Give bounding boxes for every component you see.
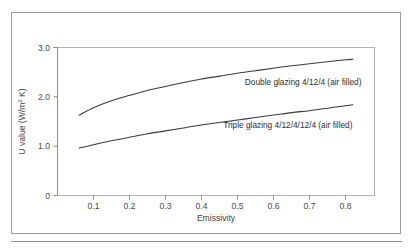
annotation-triple-glazing: Triple glazing 4/12/4/12/4 (air filled) <box>223 120 353 130</box>
y-tick-marks <box>54 48 58 196</box>
svg-text:U value (W/m2 K): U value (W/m2 K) <box>17 88 27 155</box>
x-tick-label-0: 0.1 <box>88 201 100 211</box>
x-tick-label-4: 0.5 <box>232 201 244 211</box>
y-tick-label-1: 1.0 <box>38 141 50 151</box>
y-axis-title: U value (W/m2 K) <box>17 88 27 155</box>
x-axis-title: Emissivity <box>197 213 236 223</box>
x-tick-label-1: 0.2 <box>124 201 136 211</box>
figure-root: 0 1.0 2.0 3.0 U value (W/m2 K) 0.1 0.2 0… <box>0 0 413 248</box>
y-axis-title-tail: K) <box>17 88 27 99</box>
x-tick-marks <box>94 196 346 200</box>
u-value-emissivity-chart: 0 1.0 2.0 3.0 U value (W/m2 K) 0.1 0.2 0… <box>0 0 413 248</box>
y-tick-label-0: 0 <box>45 191 50 201</box>
y-tick-label-3: 3.0 <box>38 43 50 53</box>
y-tick-label-2: 2.0 <box>38 92 50 102</box>
x-tick-label-5: 0.6 <box>268 201 280 211</box>
curve-double-glazing <box>79 59 353 115</box>
x-tick-label-7: 0.8 <box>340 201 352 211</box>
x-tick-label-6: 0.7 <box>304 201 316 211</box>
x-tick-label-3: 0.4 <box>196 201 208 211</box>
x-tick-label-2: 0.3 <box>160 201 172 211</box>
y-axis-title-main: U value (W/m <box>17 103 27 155</box>
annotation-double-glazing: Double glazing 4/12/4 (air filled) <box>245 77 362 87</box>
